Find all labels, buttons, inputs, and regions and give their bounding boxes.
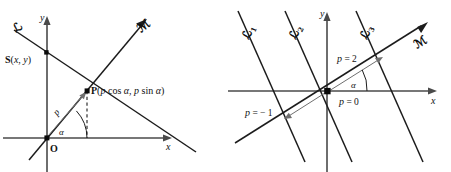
distance-p-label: p xyxy=(50,107,61,118)
label-p-eq-2: p = 2 xyxy=(336,53,357,64)
svg-text:P(p cos α, p sin α): P(p cos α, p sin α) xyxy=(91,85,164,97)
angle-alpha-label-left: α xyxy=(59,127,64,137)
origin-dot-right xyxy=(324,88,330,94)
left-panel-normal-form: y x ℒ ℳ S(x, y) P(p cos α, p sin α) O p … xyxy=(0,0,226,172)
point-S-dot xyxy=(44,50,48,54)
point-P-label: P(p cos α, p sin α) xyxy=(91,85,164,97)
point-P-dot xyxy=(85,88,90,93)
angle-arc-alpha-left xyxy=(76,111,87,138)
figure-root: y x ℒ ℳ S(x, y) P(p cos α, p sin α) O p … xyxy=(0,0,451,172)
line-label-L3: ℒ3 xyxy=(357,23,377,42)
label-p-eq-neg1: p = − 1 xyxy=(244,107,273,118)
y-axis-label-right: y xyxy=(319,8,325,19)
line-label-L1: ℒ1 xyxy=(239,23,259,42)
svg-text:ℒ2: ℒ2 xyxy=(286,23,306,42)
ray-label-M-right: ℳ xyxy=(411,33,429,52)
x-axis-label-right: x xyxy=(430,95,436,106)
svg-text:ℒ1: ℒ1 xyxy=(239,23,259,42)
svg-text:p = − 1: p = − 1 xyxy=(244,107,273,118)
measure-p-neg1 xyxy=(284,93,325,119)
svg-text:S(x, y): S(x, y) xyxy=(5,54,31,66)
origin-label-O: O xyxy=(50,143,58,154)
ray-label-M-left: ℳ xyxy=(134,16,153,35)
ray-M-right xyxy=(235,22,428,143)
svg-text:ℒ3: ℒ3 xyxy=(357,23,377,42)
angle-arc-alpha-right xyxy=(362,70,367,91)
origin-O-dot-left xyxy=(44,135,49,140)
right-panel-parallel-family: y x ℒ1 ℒ2 ℒ3 ℳ p = 2 xyxy=(225,0,451,172)
point-S-label: S(x, y) xyxy=(5,54,31,66)
svg-text:p = 0: p = 0 xyxy=(338,96,359,107)
label-p-eq-0: p = 0 xyxy=(338,96,359,107)
x-axis-label-left: x xyxy=(165,141,171,152)
angle-alpha-label-right: α xyxy=(351,80,356,90)
y-axis-label-left: y xyxy=(39,12,45,23)
svg-text:p = 2: p = 2 xyxy=(336,53,357,64)
line-label-L2: ℒ2 xyxy=(286,23,306,42)
line-label-L: ℒ xyxy=(10,19,25,36)
